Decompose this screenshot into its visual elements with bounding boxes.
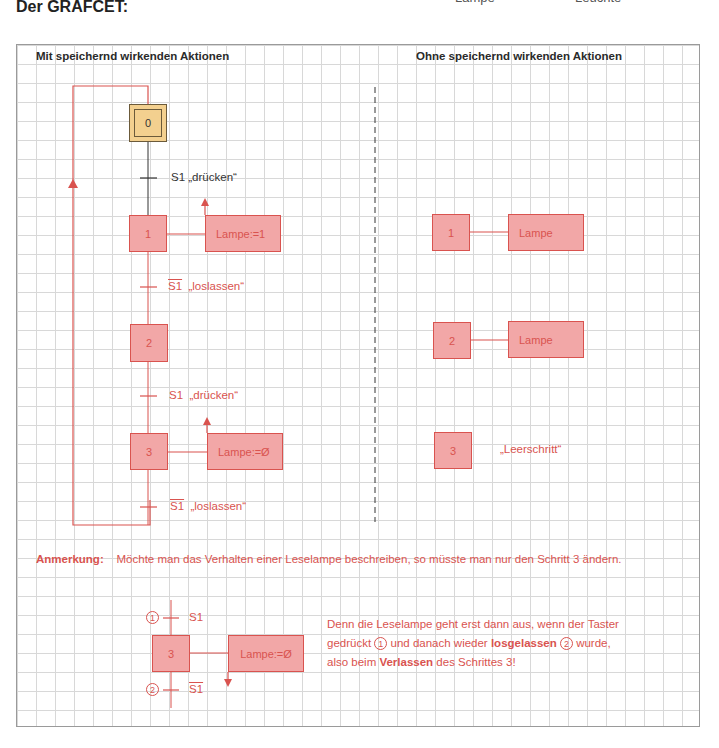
marker-1-icon: 1 bbox=[146, 611, 159, 624]
action-arrow-down-icon bbox=[224, 679, 232, 687]
right-step-1: 1 bbox=[432, 214, 470, 251]
right-step-3: 3 bbox=[434, 432, 472, 469]
transition-comment: „drücken“ bbox=[188, 171, 237, 183]
explanation-line-1: Denn die Leselampe geht erst dann aus, w… bbox=[327, 618, 619, 630]
right-step-2: 2 bbox=[433, 322, 471, 359]
transition-signal: S1 bbox=[171, 171, 185, 183]
note-text: Möchte man das Verhalten einer Leselampe… bbox=[117, 553, 622, 565]
transition-comment: „loslassen“ bbox=[188, 280, 244, 292]
action-lampe-reset: Lampe:=Ø bbox=[207, 433, 283, 470]
explanation-line-2: gedrückt 1 und danach wieder losgelassen… bbox=[327, 637, 611, 650]
initial-step-0: 0 bbox=[129, 104, 167, 142]
example-transition-top: S1 bbox=[189, 611, 203, 623]
transition-signal: S1 bbox=[169, 389, 183, 401]
action-arrow-up-icon bbox=[203, 417, 211, 425]
note: Anmerkung: Möchte man das Verhalten eine… bbox=[36, 553, 622, 565]
example-transition-bottom: S1 bbox=[189, 683, 203, 695]
transition-comment: „loslassen“ bbox=[190, 500, 246, 512]
action-arrow-up-icon bbox=[201, 198, 209, 206]
step-1: 1 bbox=[129, 215, 167, 252]
transition-comment: „drücken“ bbox=[189, 389, 238, 401]
example-step-3: 3 bbox=[152, 635, 190, 672]
marker-2-icon: 2 bbox=[146, 683, 159, 696]
example-action-lampe-reset: Lampe:=Ø bbox=[228, 635, 304, 672]
step-3: 3 bbox=[130, 433, 168, 470]
right-action-lampe-2: Lampe bbox=[508, 321, 584, 358]
transition-2: S1 „loslassen“ bbox=[168, 280, 244, 292]
transition-3: S1 „drücken“ bbox=[169, 389, 238, 401]
note-label: Anmerkung: bbox=[36, 553, 104, 565]
transition-4: S1 „loslassen“ bbox=[170, 500, 246, 512]
leerschritt-label: „Leerschritt“ bbox=[500, 443, 561, 455]
right-action-lampe-1: Lampe bbox=[508, 214, 584, 251]
explanation-line-3: also beim Verlassen des Schrittes 3! bbox=[327, 656, 516, 668]
transition-signal-negated: S1 bbox=[170, 500, 184, 512]
marker-2-icon: 2 bbox=[560, 637, 573, 650]
loop-arrow-up-icon bbox=[68, 179, 78, 188]
step-2: 2 bbox=[130, 324, 168, 362]
transition-1: S1 „drücken“ bbox=[171, 171, 237, 183]
transition-signal-negated: S1 bbox=[168, 280, 182, 292]
initial-step-label: 0 bbox=[134, 109, 162, 137]
action-lampe-set: Lampe:=1 bbox=[205, 215, 281, 252]
marker-1-icon: 1 bbox=[374, 637, 387, 650]
connection-lines bbox=[0, 0, 719, 748]
